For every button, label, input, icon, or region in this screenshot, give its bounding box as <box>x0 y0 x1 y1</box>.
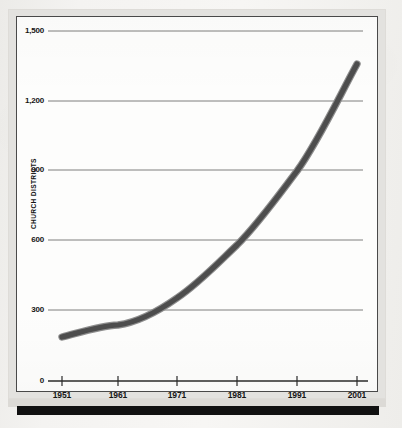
figure-frame-border <box>16 16 378 392</box>
figure-bottom-shadow-bar <box>17 406 379 415</box>
chart-page: 1,500 1,200 900 600 300 0 CHURCH DISTRIC… <box>0 0 402 428</box>
